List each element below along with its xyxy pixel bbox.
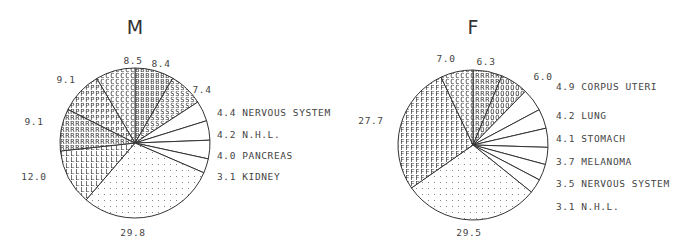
slice-value-label: 6.0 xyxy=(534,71,553,82)
slice-value-label: 7.4 xyxy=(193,84,212,95)
slice-value-label: 8.5 xyxy=(124,55,143,66)
slice-value-label: 12.0 xyxy=(21,171,46,182)
slice-category-label: 4.4 NERVOUS SYSTEM xyxy=(217,107,331,118)
pie-charts: BSLRPCOF 8.47.44.4 NERVOUS SYSTEM4.2 N.H… xyxy=(0,0,689,248)
pie-chart-m: 8.47.44.4 NERVOUS SYSTEM4.2 N.H.L.4.0 PA… xyxy=(21,16,330,238)
chart-title: F xyxy=(468,16,479,38)
slice-category-label: 3.1 N.H.L. xyxy=(556,201,619,212)
chart-title: M xyxy=(127,16,143,38)
slice-category-label: 4.0 PANCREAS xyxy=(217,150,293,161)
slice-category-label: 4.2 LUNG xyxy=(556,110,607,121)
pie-chart-f: 6.36.04.9 CORPUS UTERI4.2 LUNG4.1 STOMAC… xyxy=(358,16,669,238)
slice-category-label: 3.7 MELANOMA xyxy=(556,156,632,167)
slice-value-label: 29.8 xyxy=(120,227,145,238)
slice-value-label: 7.0 xyxy=(437,53,456,64)
slice-value-label: 9.1 xyxy=(25,116,44,127)
slice-category-label: 4.9 CORPUS UTERI xyxy=(556,81,657,92)
slice-value-label: 9.1 xyxy=(57,74,76,85)
slice-value-label: 8.4 xyxy=(152,58,171,69)
slice-value-label: 29.5 xyxy=(456,227,481,238)
slice-category-label: 3.1 KIDNEY xyxy=(217,171,280,182)
slice-category-label: 4.1 STOMACH xyxy=(556,133,626,144)
slice-value-label: 6.3 xyxy=(477,56,496,67)
slice-category-label: 4.2 N.H.L. xyxy=(217,129,280,140)
slice-value-label: 27.7 xyxy=(358,115,383,126)
slice-category-label: 3.5 NERVOUS SYSTEM xyxy=(556,178,670,189)
